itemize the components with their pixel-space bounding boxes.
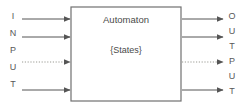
input-letter-u: U [7,63,19,72]
output-letter-p: P [226,57,238,66]
input-letter-i: I [7,12,19,21]
automaton-diagram: Automaton {States} I N P U T O U T P U T [0,0,245,109]
output-letter-u1: U [226,27,238,36]
output-letter-t2: T [226,87,238,96]
output-letter-u2: U [226,72,238,81]
output-arrow-group [182,19,223,90]
input-arrow-group [22,19,70,90]
output-letter-t1: T [226,42,238,51]
input-letter-p: P [7,46,19,55]
states-label: {States} [70,45,182,55]
input-letter-n: N [7,29,19,38]
input-letter-t: T [7,80,19,89]
automaton-label: Automaton [70,14,182,25]
output-letter-o: O [226,12,238,21]
